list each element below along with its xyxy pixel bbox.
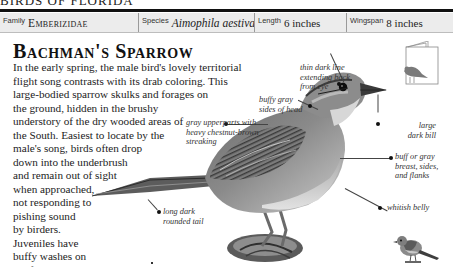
length-value: 6 inches xyxy=(284,17,320,29)
body-line: by birders. xyxy=(13,223,242,237)
body-line: buffy washes on xyxy=(13,250,242,264)
callout-dot-tail xyxy=(157,210,161,214)
callout-line: sides of head xyxy=(259,105,302,115)
species-value: Aimophila aestivalis xyxy=(172,17,255,29)
body-line: pishing sound xyxy=(13,210,242,224)
callout-eye-line: thin dark line extending back from eye xyxy=(300,63,350,92)
callout-line: buffy gray xyxy=(259,95,302,105)
top-rule-divider xyxy=(0,9,453,12)
callout-dot-belly xyxy=(378,206,382,210)
callout-leader-breast xyxy=(340,158,390,159)
wingspan-cell: Wingspan 8 inches xyxy=(347,13,453,32)
body-line: Juveniles have xyxy=(13,237,242,251)
callout-dot-breast xyxy=(389,156,393,160)
callout-breast: buff or gray breast, sides, and flanks xyxy=(395,152,438,181)
callout-line: and flanks xyxy=(395,171,438,181)
running-head: BIRDS OF FLORIDA xyxy=(0,0,453,5)
species-info-bar: Family Emberizidae Species Aimophila aes… xyxy=(0,13,453,33)
callout-line: rounded tail xyxy=(163,217,203,227)
body-line: flight song contrasts with its drab colo… xyxy=(13,75,242,89)
body-line: not responding to xyxy=(13,196,242,210)
species-title: Bachman's Sparrow xyxy=(13,40,193,63)
body-line: the face, chest, and xyxy=(13,264,242,267)
callout-belly: whitish belly xyxy=(387,203,429,213)
callout-head-sides: buffy gray sides of head xyxy=(259,95,302,114)
callout-line: long dark xyxy=(163,207,203,217)
length-cell: Length 6 inches xyxy=(255,13,347,32)
species-cell: Species Aimophila aestivalis xyxy=(139,13,255,32)
callout-line: gray upperparts with xyxy=(186,118,259,128)
callout-line: streaking xyxy=(186,137,259,147)
bill xyxy=(360,83,387,96)
callout-line: whitish belly xyxy=(387,203,429,213)
family-value: Emberizidae xyxy=(28,17,88,29)
family-label: Family xyxy=(3,16,25,25)
family-cell: Family Emberizidae xyxy=(0,13,139,32)
callout-line: thin dark line xyxy=(300,63,350,73)
species-label: Species xyxy=(142,16,169,25)
juvenile-bird-thumbnail xyxy=(393,232,443,264)
callout-line: extending back xyxy=(300,73,350,83)
length-label: Length xyxy=(258,16,281,25)
callout-line: dark bill xyxy=(400,131,436,141)
callout-dot-bill xyxy=(376,122,380,126)
callout-leader-bill xyxy=(378,95,379,113)
wingspan-value: 8 inches xyxy=(386,17,422,29)
wingspan-label: Wingspan xyxy=(350,16,383,25)
callout-tail: long dark rounded tail xyxy=(163,207,203,226)
callout-dot-head xyxy=(308,104,312,108)
body-line: when approached, xyxy=(13,183,242,197)
callout-line: breast, sides, xyxy=(395,162,438,172)
callout-line: heavy chestnut-brown xyxy=(186,128,259,138)
callout-line: large xyxy=(400,121,436,131)
field-guide-book-icon xyxy=(404,41,440,85)
body-line: In the early spring, the male bird's lov… xyxy=(13,61,242,75)
body-line: large-bodied sparrow skulks and forages … xyxy=(13,88,242,102)
body-line: the ground, hidden in the brushy xyxy=(13,102,242,116)
species-description: In the early spring, the male bird's lov… xyxy=(13,61,242,267)
page-marker-dot xyxy=(151,262,153,264)
callout-bill: large dark bill xyxy=(400,121,436,140)
body-line: and remain out of sight xyxy=(13,169,242,183)
callout-upperparts: gray upperparts with heavy chestnut-brow… xyxy=(186,118,259,147)
body-line: down into the underbrush xyxy=(13,156,242,170)
callout-line: from eye xyxy=(300,82,350,92)
callout-line: buff or gray xyxy=(395,152,438,162)
